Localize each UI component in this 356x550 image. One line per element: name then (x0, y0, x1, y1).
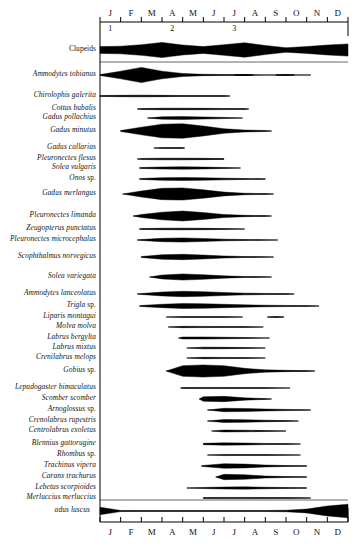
species-label: Rhombus sp. (57, 450, 96, 458)
month-tick-label: S (269, 527, 283, 537)
kite-row (141, 254, 273, 259)
kite-row (154, 148, 185, 149)
kite-row (199, 396, 271, 401)
species-label: Gadus minutus (50, 126, 96, 134)
month-tick-label: N (310, 8, 324, 18)
kite-row (168, 326, 263, 327)
month-tick-label: J (103, 527, 117, 537)
kite-extra-segment (234, 75, 253, 76)
month-tick-label: M (186, 8, 200, 18)
kite-row (203, 443, 300, 445)
kite-row (187, 357, 266, 358)
species-label: Zeugopterus punctatus (26, 224, 96, 232)
species-label: Gadus callarias (47, 143, 96, 151)
species-label: Triglа sp. (67, 301, 96, 309)
kite-row (201, 464, 306, 469)
month-tick-label: A (165, 527, 179, 537)
month-tick-label: J (207, 8, 221, 18)
month-tick-label: M (186, 527, 200, 537)
kite-row (137, 158, 224, 160)
species-label: Pleuronectes microcephalus (10, 235, 96, 243)
species-label: Gadus merlangus (42, 189, 96, 197)
month-tick-label: O (289, 8, 303, 18)
month-tick-label: M (145, 527, 159, 537)
kite-row (207, 419, 298, 422)
kite-row (121, 124, 272, 138)
kite-row (179, 337, 270, 339)
kite-row (166, 317, 284, 318)
kite-row (187, 487, 307, 489)
species-label: Trachinus vipera (44, 461, 96, 469)
kite-row (100, 504, 348, 518)
species-label: Crenilabrus melops (36, 353, 96, 361)
species-label: Labrus mixtus (53, 343, 96, 351)
month-tick-label: F (124, 527, 138, 537)
month-tick-label: D (331, 527, 345, 537)
kite-row (137, 291, 294, 296)
month-tick-label: J (227, 8, 241, 18)
month-tick-label: J (227, 527, 241, 537)
year-mark-label: 1 (105, 24, 115, 33)
species-label: Caranx trachurus (42, 472, 96, 480)
month-tick-label: A (248, 527, 262, 537)
month-tick-label: F (124, 8, 138, 18)
kite-row (137, 238, 278, 242)
species-label: adus luscus (55, 506, 90, 514)
species-label: Pleuronectes limanda (30, 211, 96, 219)
kite-row (139, 304, 319, 309)
species-label: Gadus pollachius (42, 113, 96, 121)
month-tick-label: N (310, 527, 324, 537)
species-label: Labrus bergylta (47, 333, 96, 341)
month-tick-label: D (331, 8, 345, 18)
species-label: Solea vulgaris (52, 163, 96, 171)
species-label: Lebetus scorpioides (35, 483, 96, 491)
species-label: Crenolabrus rupestris (29, 416, 96, 424)
month-tick-label: A (248, 8, 262, 18)
kite-row (139, 167, 240, 169)
species-label: Molva molva (56, 322, 96, 330)
species-label: Clupeids (69, 45, 96, 53)
species-label: Centrolabrus exoletus (29, 426, 96, 434)
species-label: Scomber scomber (42, 394, 96, 402)
year-mark-label: 3 (229, 24, 239, 33)
species-label: Ammodytes lanceolatus (24, 289, 96, 297)
kite-row (123, 188, 274, 200)
species-label: Pleuronectes flesus (37, 154, 96, 162)
species-label: Lepadogaster bimaculatus (15, 383, 96, 391)
year-mark-label: 2 (167, 24, 177, 33)
kite-row (100, 42, 348, 57)
month-tick-label: J (207, 527, 221, 537)
kite-row (203, 497, 310, 498)
kite-row (150, 274, 272, 280)
bottom-axis (100, 517, 348, 522)
species-label: Gobius sp. (63, 366, 96, 374)
species-label: Ammodytes tobianus (33, 70, 96, 78)
kite-row (207, 408, 310, 411)
kite-diagram-figure: ClupeidsAmmodytes tobianusChirolophis ga… (0, 0, 356, 550)
kite-row (207, 454, 300, 455)
species-label: Solea variegata (48, 272, 96, 280)
kite-extra-segment (276, 75, 295, 76)
species-label: Merluccius merluccius (26, 493, 96, 501)
kite-row (148, 117, 243, 120)
kite-row (216, 474, 307, 479)
kite-row (181, 387, 291, 388)
species-label: Chirolophis galerita (34, 91, 96, 99)
kite-extra-segment (267, 317, 284, 318)
species-label: Scophthalmus norvegicus (18, 252, 96, 260)
month-tick-label: J (103, 8, 117, 18)
kite-row (137, 108, 249, 110)
species-label: Onos sp. (69, 174, 96, 182)
month-tick-label: M (145, 8, 159, 18)
kite-band-group (100, 42, 348, 517)
species-label: Blennius gattorugine (32, 439, 96, 447)
kite-row (187, 347, 266, 349)
month-tick-label: O (289, 527, 303, 537)
species-label: Arnoglossus sp. (48, 405, 96, 413)
species-label: Liparis montagui (43, 312, 96, 320)
kite-row (166, 365, 315, 377)
kite-row (212, 430, 286, 432)
kite-row (139, 177, 265, 180)
kite-row (100, 95, 230, 97)
species-label: Cottus bubalis (52, 104, 96, 112)
